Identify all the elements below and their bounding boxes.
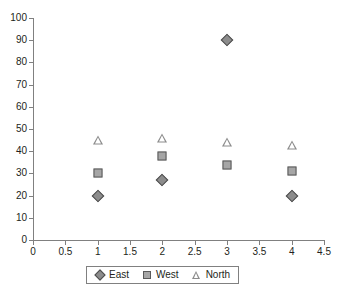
data-point-east <box>285 189 298 202</box>
y-tick-mark <box>29 151 33 152</box>
y-tick-mark <box>29 129 33 130</box>
y-tick-mark <box>29 218 33 219</box>
x-tick-label: 1.5 <box>123 247 137 257</box>
y-tick-mark <box>29 40 33 41</box>
x-tick-mark <box>98 241 99 245</box>
legend-label: East <box>109 270 129 280</box>
x-tick-label: 0 <box>30 247 36 257</box>
data-point-east <box>156 174 169 187</box>
x-tick-mark <box>130 241 131 245</box>
x-tick-label: 2.5 <box>188 247 202 257</box>
x-tick-label: 2 <box>160 247 166 257</box>
triangle-marker <box>192 271 200 279</box>
y-axis-line <box>33 18 34 241</box>
x-axis-line <box>33 240 325 241</box>
x-tick-label: 4.5 <box>317 247 331 257</box>
x-tick-label: 3.5 <box>252 247 266 257</box>
y-tick-label: 70 <box>16 80 27 90</box>
data-point-west <box>93 169 102 178</box>
x-tick-mark <box>292 241 293 245</box>
legend-label: North <box>206 270 230 280</box>
x-tick-mark <box>227 241 228 245</box>
data-point-north <box>287 140 297 149</box>
legend-swatch-diamond-icon <box>95 271 104 280</box>
legend-swatch-triangle-icon <box>192 271 201 280</box>
legend-item-east[interactable]: East <box>95 270 129 280</box>
data-point-north <box>157 133 167 142</box>
y-tick-mark <box>29 62 33 63</box>
data-point-west <box>223 160 232 169</box>
data-point-north <box>222 138 232 147</box>
diamond-marker <box>94 269 105 280</box>
y-tick-label: 10 <box>16 213 27 223</box>
legend-item-north[interactable]: North <box>192 270 230 280</box>
x-tick-mark <box>259 241 260 245</box>
y-tick-label: 20 <box>16 191 27 201</box>
x-tick-mark <box>162 241 163 245</box>
data-point-west <box>287 167 296 176</box>
chart-legend: EastWestNorth <box>86 266 239 284</box>
y-tick-label: 60 <box>16 102 27 112</box>
y-tick-label: 80 <box>16 57 27 67</box>
x-tick-label: 4 <box>289 247 295 257</box>
x-tick-label: 0.5 <box>58 247 72 257</box>
y-tick-label: 30 <box>16 168 27 178</box>
x-tick-mark <box>33 241 34 245</box>
x-tick-label: 3 <box>224 247 230 257</box>
y-tick-mark <box>29 18 33 19</box>
x-tick-mark <box>195 241 196 245</box>
y-tick-mark <box>29 107 33 108</box>
scatter-chart: 0102030405060708090100 00.511.522.533.54… <box>0 0 339 297</box>
y-tick-label: 0 <box>21 235 27 245</box>
square-marker <box>143 271 151 279</box>
data-point-north <box>93 136 103 145</box>
y-tick-mark <box>29 173 33 174</box>
legend-swatch-square-icon <box>142 271 151 280</box>
y-tick-label: 90 <box>16 35 27 45</box>
legend-item-west[interactable]: West <box>142 270 179 280</box>
data-point-west <box>158 151 167 160</box>
y-tick-mark <box>29 85 33 86</box>
legend-label: West <box>156 270 179 280</box>
data-point-east <box>91 189 104 202</box>
data-point-east <box>221 34 234 47</box>
x-tick-mark <box>324 241 325 245</box>
y-tick-label: 40 <box>16 146 27 156</box>
y-tick-label: 100 <box>10 13 27 23</box>
plot-area: 0102030405060708090100 00.511.522.533.54… <box>33 18 324 240</box>
x-tick-mark <box>65 241 66 245</box>
x-tick-label: 1 <box>95 247 101 257</box>
y-tick-label: 50 <box>16 124 27 134</box>
y-tick-mark <box>29 196 33 197</box>
